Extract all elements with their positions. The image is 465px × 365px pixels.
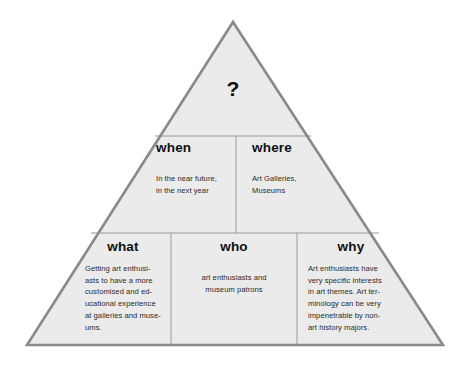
cell-when-heading: when xyxy=(146,141,232,156)
cell-when: when In the near future, in the next yea… xyxy=(146,141,232,196)
cell-where: where Art Galleries, Museums xyxy=(242,141,330,196)
cell-what: what Getting art enthusi- asts to have a… xyxy=(78,240,168,333)
apex-cell: ? xyxy=(196,78,270,99)
cell-where-heading: where xyxy=(242,141,330,156)
cell-why-body: Art enthusiasts have very specific inter… xyxy=(302,263,400,334)
cell-why: why Art enthusiasts have very specific i… xyxy=(302,240,400,333)
cell-who-body: art enthusiasts and museum patrons xyxy=(174,272,294,296)
cell-who: who art enthusiasts and museum patrons xyxy=(174,240,294,295)
cell-why-heading: why xyxy=(302,240,400,255)
pyramid-diagram: ? when In the near future, in the next y… xyxy=(0,0,465,365)
cell-what-heading: what xyxy=(78,240,168,255)
cell-when-body: In the near future, in the next year xyxy=(146,173,232,197)
cell-where-body: Art Galleries, Museums xyxy=(242,173,330,197)
cell-who-heading: who xyxy=(174,240,294,255)
question-mark-icon: ? xyxy=(196,78,270,99)
cell-what-body: Getting art enthusi- asts to have a more… xyxy=(78,263,168,334)
